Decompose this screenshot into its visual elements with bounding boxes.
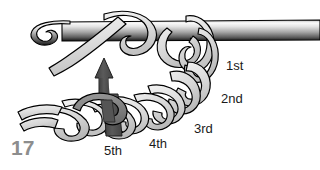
arrow-through-loop <box>101 100 115 122</box>
stitch-label-2nd: 2nd <box>221 91 243 106</box>
stitch-label-3rd: 3rd <box>194 121 213 136</box>
stitch-label-5th: 5th <box>104 143 122 158</box>
crochet-chain-stitch-figure: 1st 2nd 3rd 4th 5th 17 <box>0 0 320 170</box>
figure-number: 17 <box>11 136 34 160</box>
crochet-hook <box>31 20 320 45</box>
stitch-label-4th: 4th <box>149 136 167 151</box>
chain-tail-left-lower <box>20 118 58 131</box>
stitch-label-1st: 1st <box>226 58 243 73</box>
